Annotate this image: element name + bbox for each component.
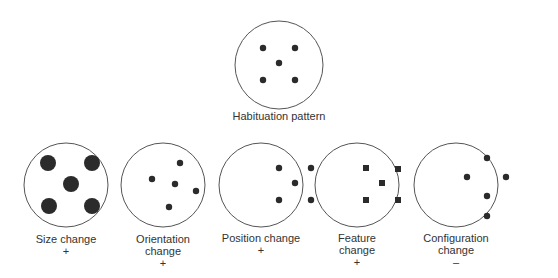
feature-change-result: + [338, 256, 376, 268]
configuration-change-panel [414, 143, 509, 227]
size-change-panel [24, 143, 108, 227]
feature-change-panel [315, 143, 401, 227]
position-change-result: + [222, 244, 300, 256]
dot-marker [484, 193, 490, 199]
dot-marker [484, 155, 490, 161]
orientation-change-label-line2: change [136, 245, 190, 257]
dot-marker [193, 188, 199, 194]
dot-marker [292, 45, 298, 51]
dot-marker [41, 198, 57, 214]
dot-marker [40, 155, 56, 171]
size-change-label-text: Size change [36, 233, 97, 245]
feature-change-label-line1: Feature [338, 232, 376, 244]
position-change-panel [219, 143, 314, 227]
square-marker [395, 197, 401, 203]
dot-marker [464, 174, 470, 180]
dot-marker [292, 180, 298, 186]
configuration-change-label: Configuration change – [423, 232, 488, 268]
orientation-change-result: + [136, 257, 190, 269]
dot-marker [84, 198, 100, 214]
orientation-change-panel [121, 143, 205, 227]
position-change-circle [219, 143, 303, 227]
size-change-label: Size change + [36, 233, 97, 257]
dot-marker [177, 160, 183, 166]
habituation-label-text: Habituation pattern [233, 110, 326, 122]
dot-marker [149, 176, 155, 182]
orientation-change-label-line1: Orientation [136, 233, 190, 245]
dot-marker [63, 176, 79, 192]
habituation-label: Habituation pattern [233, 110, 326, 122]
habituation-panel [235, 21, 323, 109]
square-marker [395, 166, 401, 172]
dot-marker [503, 174, 509, 180]
feature-change-circle [315, 143, 399, 227]
dot-marker [292, 77, 298, 83]
square-marker [363, 197, 369, 203]
feature-change-label: Feature change + [338, 232, 376, 268]
position-change-label: Position change + [222, 232, 300, 256]
size-change-result: + [36, 245, 97, 257]
dot-marker [260, 45, 266, 51]
dot-marker [308, 165, 314, 171]
configuration-change-result: – [423, 256, 488, 268]
orientation-change-circle [121, 143, 205, 227]
orientation-change-label: Orientation change + [136, 233, 190, 269]
dot-marker [276, 60, 282, 66]
feature-change-label-line2: change [338, 244, 376, 256]
square-marker [379, 180, 385, 186]
dot-marker [276, 197, 282, 203]
dot-marker [166, 204, 172, 210]
dot-marker [260, 77, 266, 83]
dot-marker [172, 181, 178, 187]
dot-marker [484, 213, 490, 219]
habituation-diagram: Habituation pattern Size change + Orient… [0, 0, 558, 278]
configuration-change-label-line1: Configuration [423, 232, 488, 244]
dot-marker [84, 155, 100, 171]
position-change-label-text: Position change [222, 232, 300, 244]
dot-marker [276, 165, 282, 171]
square-marker [363, 165, 369, 171]
dot-marker [308, 197, 314, 203]
configuration-change-label-line2: change [423, 244, 488, 256]
